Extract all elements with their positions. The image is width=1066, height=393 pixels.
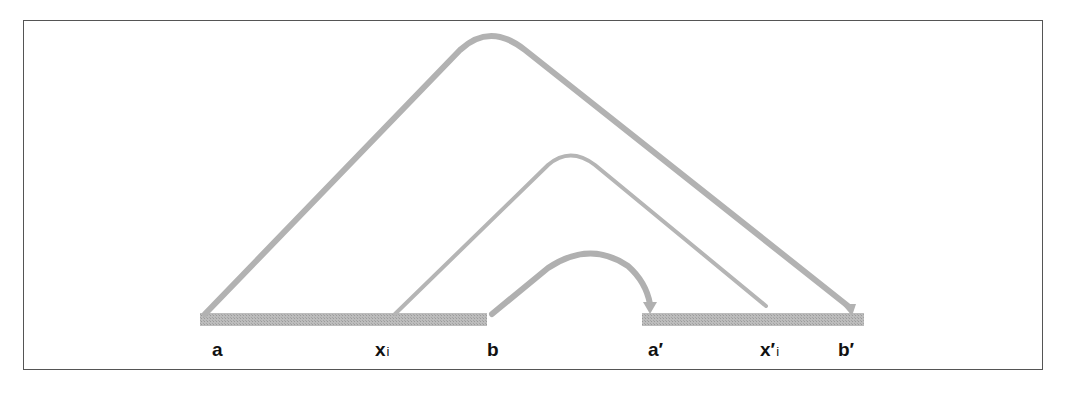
- label-b-prime-text: b′: [838, 339, 854, 360]
- label-xi-sub: i: [387, 344, 390, 359]
- segment-a-prime-b-prime: [642, 313, 864, 326]
- label-xpi-sub: i: [776, 344, 779, 359]
- label-xi-main: x: [375, 339, 386, 360]
- arc-outer: [205, 36, 848, 314]
- label-b-prime: b′: [838, 340, 854, 359]
- label-xpi: x′i: [760, 340, 779, 359]
- arc-inner: [492, 253, 650, 314]
- label-b: b: [487, 340, 499, 359]
- label-a: a: [212, 340, 223, 359]
- arc-diagram: [0, 0, 1066, 393]
- label-a-prime: a′: [648, 340, 663, 359]
- label-a-prime-text: a′: [648, 339, 663, 360]
- arc-middle: [395, 156, 766, 315]
- label-b-text: b: [487, 339, 499, 360]
- label-xpi-main: x′: [760, 339, 775, 360]
- label-xi: xi: [375, 340, 389, 359]
- segment-a-b: [200, 313, 487, 326]
- label-a-text: a: [212, 339, 223, 360]
- arrowhead-inner-icon: [643, 302, 657, 314]
